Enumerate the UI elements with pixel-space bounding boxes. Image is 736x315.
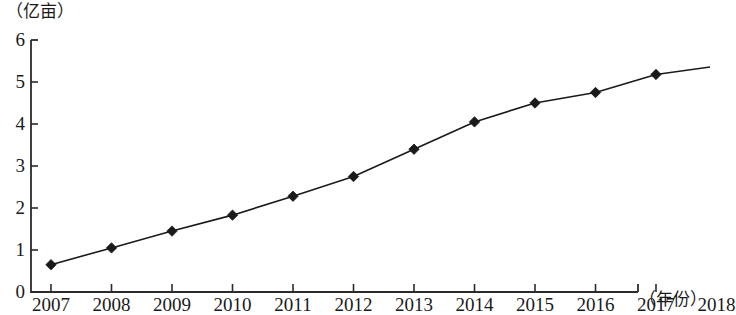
y-axis-tick-label: 5	[3, 72, 25, 91]
chart-axes	[31, 40, 638, 292]
x-axis-tick-label: 2011	[274, 295, 311, 314]
x-axis-ticks	[51, 284, 710, 292]
x-axis-tick-label: 2009	[153, 295, 191, 314]
y-axis-tick-label: 3	[3, 156, 25, 175]
x-axis-tick-label: 2007	[32, 295, 70, 314]
x-axis-tick-label: 2018	[698, 295, 736, 314]
y-axis-tick-label: 2	[3, 198, 25, 217]
x-axis-tick-label: 2012	[335, 295, 373, 314]
x-axis-tick-label: 2010	[214, 295, 252, 314]
y-axis-tick-label: 0	[3, 282, 25, 301]
x-axis-tick-label: 2016	[577, 295, 615, 314]
x-axis-tick-label: 2014	[456, 295, 494, 314]
y-axis-ticks	[31, 82, 38, 250]
x-axis-tick-label: 2017	[637, 295, 675, 314]
x-axis-tick-label: 2013	[395, 295, 433, 314]
y-axis-tick-label: 1	[3, 240, 25, 259]
y-axis-unit-label: （亿亩）	[6, 2, 74, 22]
x-axis-tick-label: 2008	[93, 295, 131, 314]
x-axis-tick-label: 2015	[516, 295, 554, 314]
y-axis-tick-label: 6	[3, 30, 25, 49]
data-line	[51, 66, 710, 265]
y-axis-tick-label: 4	[3, 114, 25, 133]
